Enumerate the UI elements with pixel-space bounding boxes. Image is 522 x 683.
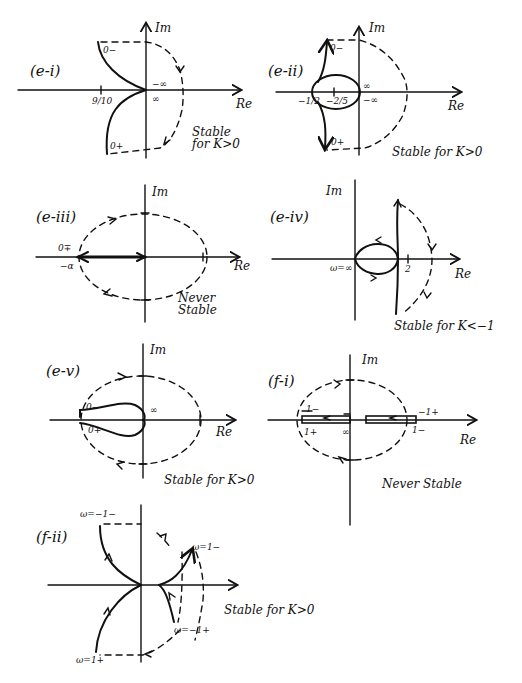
tick-2: 2 (405, 265, 411, 274)
nyquist-diagrams-canvas (0, 0, 522, 683)
axis-im-e-i: Im (155, 22, 171, 34)
panel-f-i-plot (268, 355, 475, 525)
tick-neg-inf: −∞ (363, 96, 378, 105)
freq-0-minus: 0− (86, 403, 99, 412)
tick-neg-2-5: −2/5 (326, 97, 348, 106)
freq-0-plus: 0+ (110, 142, 123, 151)
tick-1-minus-right: 1− (412, 426, 425, 435)
panel-title-f-i: (f-i) (268, 374, 295, 389)
tick-neg-half: −1/2 (298, 97, 320, 106)
tick-inf: ∞ (150, 406, 158, 415)
freq-0-mp: 0∓ (58, 244, 71, 253)
panel-e-ii-plot (276, 28, 460, 155)
panel-title-e-iv: (e-iv) (270, 210, 309, 225)
tick-omega-1-minus: ω=1− (192, 543, 220, 552)
panel-title-e-i: (e-i) (30, 64, 60, 79)
freq-0-plus: 0+ (88, 426, 101, 435)
axis-im-e-iii: Im (152, 186, 168, 198)
panel-title-e-v: (e-v) (46, 364, 80, 379)
panel-title-e-iii: (e-iii) (36, 210, 76, 225)
tick-omega-neg1-minus: ω=−1− (80, 510, 116, 519)
stability-note-e-i: Stable for K>0 (192, 126, 252, 150)
stability-note-e-iv: Stable for K<−1 (394, 320, 495, 332)
axis-re-f-i: Re (460, 434, 476, 446)
axis-re-e-iv: Re (455, 268, 471, 280)
stability-note-e-iii: Never Stable (178, 292, 238, 316)
tick-neg-inf: −∞ (152, 80, 167, 89)
tick-inf: ∞ (363, 82, 371, 91)
panel-title-e-ii: (e-ii) (268, 64, 303, 79)
stability-note-e-v: Stable for K>0 (164, 474, 255, 486)
axis-im-f-i: Im (362, 354, 378, 366)
stability-note-f-i: Never Stable (382, 478, 462, 490)
tick-inf: ∞ (152, 95, 160, 104)
tick-omega-neg1-plus: ω=−1+ (174, 626, 210, 635)
axis-re-e-v: Re (216, 426, 232, 438)
tick-omega-inf: ω=∞ (330, 264, 352, 273)
axis-im-e-v: Im (150, 344, 166, 356)
axis-im-e-iv: Im (326, 185, 342, 197)
axis-im-e-ii: Im (369, 22, 385, 34)
tick-1-plus-left: 1+ (304, 428, 317, 437)
stability-note-e-ii: Stable for K>0 (392, 146, 483, 158)
panel-title-f-ii: (f-ii) (36, 530, 67, 545)
tick-1-minus-left: 1− (306, 405, 319, 414)
tick-neg-alpha: −α (60, 262, 74, 271)
axis-re-e-iii: Re (234, 260, 250, 272)
stability-note-f-ii: Stable for K>0 (224, 604, 315, 616)
panel-f-ii-plot (48, 505, 236, 662)
tick-neg1-plus: −1+ (418, 408, 439, 417)
tick-inf: ∞ (342, 428, 350, 437)
freq-0-plus: 0+ (331, 138, 344, 147)
axis-re-e-ii: Re (448, 100, 464, 112)
panel-e-iv-plot (272, 180, 458, 320)
freq-0-minus: 0− (103, 46, 116, 55)
freq-0-minus: 0− (330, 44, 343, 53)
tick-9-10: 9/10 (92, 97, 112, 106)
axis-re-e-i: Re (236, 98, 252, 110)
tick-omega-1-plus: ω=1+ (76, 656, 104, 665)
